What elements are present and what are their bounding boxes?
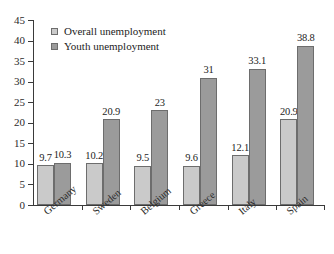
y-axis-label: 25 bbox=[0, 97, 25, 108]
x-axis-tick bbox=[82, 206, 83, 210]
x-axis-tick bbox=[228, 206, 229, 210]
y-axis-label: 35 bbox=[0, 56, 25, 67]
legend-label-youth: Youth unemployment bbox=[64, 41, 159, 52]
x-axis-tick bbox=[324, 206, 325, 210]
y-axis-label: 30 bbox=[0, 76, 25, 87]
bar-italy-overall bbox=[232, 155, 249, 205]
legend-swatch-icon-overall bbox=[51, 28, 58, 35]
bar-italy-youth bbox=[249, 69, 266, 205]
y-axis-label: 45 bbox=[0, 15, 25, 26]
y-axis-label: 20 bbox=[0, 117, 25, 128]
y-axis-label: 15 bbox=[0, 138, 25, 149]
x-axis-tick bbox=[276, 206, 277, 210]
legend-item-youth: Youth unemployment bbox=[51, 40, 166, 53]
legend-item-overall: Overall unemployment bbox=[51, 25, 166, 38]
y-axis-label: 40 bbox=[0, 35, 25, 46]
bar-value-label: 20.9 bbox=[98, 107, 125, 118]
y-axis-label: 5 bbox=[0, 179, 25, 190]
unemployment-bar-chart: 051015202530354045 9.710.310.220.99.5239… bbox=[0, 0, 334, 254]
y-axis-label: 0 bbox=[0, 200, 25, 211]
legend-swatch-icon-youth bbox=[51, 43, 58, 50]
bar-value-label: 38.8 bbox=[292, 33, 319, 44]
bar-value-label: 31 bbox=[195, 65, 222, 76]
y-axis-tick bbox=[28, 205, 33, 206]
bar-greece-youth bbox=[200, 78, 217, 205]
legend-label-overall: Overall unemployment bbox=[64, 26, 166, 37]
bar-spain-youth bbox=[297, 46, 314, 206]
x-axis-tick bbox=[179, 206, 180, 210]
bar-value-label: 33.1 bbox=[244, 56, 271, 67]
bar-spain-overall bbox=[280, 119, 297, 205]
x-axis-tick bbox=[130, 206, 131, 210]
bar-value-label: 10.3 bbox=[49, 150, 76, 161]
bar-value-label: 23 bbox=[146, 98, 173, 109]
y-axis-label: 10 bbox=[0, 158, 25, 169]
chart-legend: Overall unemployment Youth unemployment bbox=[51, 25, 166, 55]
